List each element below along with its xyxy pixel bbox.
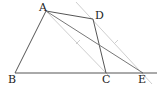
geometry-figure: A D B C E xyxy=(0,0,160,86)
aux-tick-2 xyxy=(114,40,118,44)
label-b: B xyxy=(8,73,16,86)
label-d: D xyxy=(95,9,104,22)
label-c: C xyxy=(102,73,110,86)
segment-ab xyxy=(15,11,46,73)
label-a: A xyxy=(38,1,48,14)
label-e: E xyxy=(138,73,146,86)
